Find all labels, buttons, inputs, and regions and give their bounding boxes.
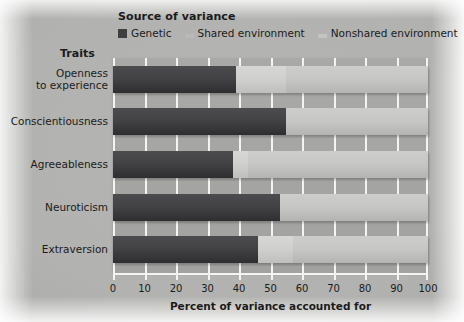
x-axis-tick bbox=[239, 273, 241, 280]
x-axis-tick bbox=[365, 273, 367, 280]
x-axis-tick-label: 40 bbox=[233, 283, 246, 294]
bar-segment-genetic bbox=[113, 108, 286, 135]
bar-segment-nonshared bbox=[248, 151, 428, 178]
legend-item-genetic: Genetic bbox=[118, 27, 172, 39]
legend-item-nonshared-environment: Nonshared environment bbox=[318, 27, 458, 39]
x-axis-tick bbox=[302, 273, 304, 280]
bar-row bbox=[113, 108, 428, 135]
nonshared-environment-swatch-icon bbox=[318, 34, 327, 38]
legend: Source of variance Genetic Shared enviro… bbox=[118, 10, 454, 39]
x-axis-tick-label: 70 bbox=[327, 283, 340, 294]
bar-row bbox=[113, 236, 428, 263]
bar-row bbox=[113, 194, 428, 221]
y-axis-label: Conscientiousness bbox=[0, 115, 108, 127]
legend-label-nonshared-environment: Nonshared environment bbox=[331, 27, 458, 39]
x-axis-tick bbox=[208, 273, 210, 280]
x-axis-tick-label: 0 bbox=[110, 283, 116, 294]
legend-item-shared-environment: Shared environment bbox=[185, 27, 305, 39]
bar-row bbox=[113, 66, 428, 93]
x-axis-tick-label: 10 bbox=[138, 283, 151, 294]
legend-label-shared-environment: Shared environment bbox=[198, 27, 305, 39]
bar-segment-shared bbox=[233, 151, 249, 178]
x-axis-tick-label: 30 bbox=[201, 283, 214, 294]
x-axis-title: Percent of variance accounted for bbox=[113, 300, 428, 312]
bars-container bbox=[113, 58, 428, 273]
x-axis-tick-label: 90 bbox=[390, 283, 403, 294]
x-axis-tick bbox=[176, 273, 178, 280]
x-axis-tick-label: 80 bbox=[359, 283, 372, 294]
bar-segment-nonshared bbox=[280, 194, 428, 221]
bar-segment-nonshared bbox=[286, 108, 428, 135]
x-axis-tick bbox=[113, 273, 115, 280]
bar-row bbox=[113, 151, 428, 178]
bar-segment-genetic bbox=[113, 236, 258, 263]
y-axis-label: Agreeableness bbox=[0, 158, 108, 170]
bar-segment-genetic bbox=[113, 194, 280, 221]
bar-segment-shared bbox=[258, 236, 293, 263]
plot-area bbox=[113, 58, 428, 273]
y-axis-label: Opennessto experience bbox=[0, 67, 108, 91]
x-axis-tick-label: 60 bbox=[296, 283, 309, 294]
x-axis-tick-label: 20 bbox=[170, 283, 183, 294]
bar-segment-shared bbox=[236, 66, 286, 93]
y-axis-label: Extraversion bbox=[0, 243, 108, 255]
x-axis-tick-label: 50 bbox=[264, 283, 277, 294]
x-axis-tick bbox=[426, 273, 428, 280]
y-axis-title: Traits bbox=[60, 47, 95, 60]
x-axis-tick bbox=[397, 273, 399, 280]
bar-segment-genetic bbox=[113, 66, 236, 93]
legend-label-genetic: Genetic bbox=[131, 27, 172, 39]
shared-environment-swatch-icon bbox=[185, 34, 194, 38]
x-axis-tick-label: 100 bbox=[418, 283, 437, 294]
chart-figure: Source of variance Genetic Shared enviro… bbox=[0, 0, 464, 322]
bar-segment-nonshared bbox=[286, 66, 428, 93]
y-axis-label: Neuroticism bbox=[0, 201, 108, 213]
x-axis-tick bbox=[334, 273, 336, 280]
genetic-swatch-icon bbox=[118, 29, 127, 38]
bar-segment-nonshared bbox=[293, 236, 428, 263]
x-axis-tick bbox=[271, 273, 273, 280]
x-axis-tick bbox=[145, 273, 147, 280]
legend-items: Genetic Shared environment Nonshared env… bbox=[118, 27, 454, 39]
legend-title: Source of variance bbox=[118, 10, 454, 23]
bar-segment-genetic bbox=[113, 151, 233, 178]
